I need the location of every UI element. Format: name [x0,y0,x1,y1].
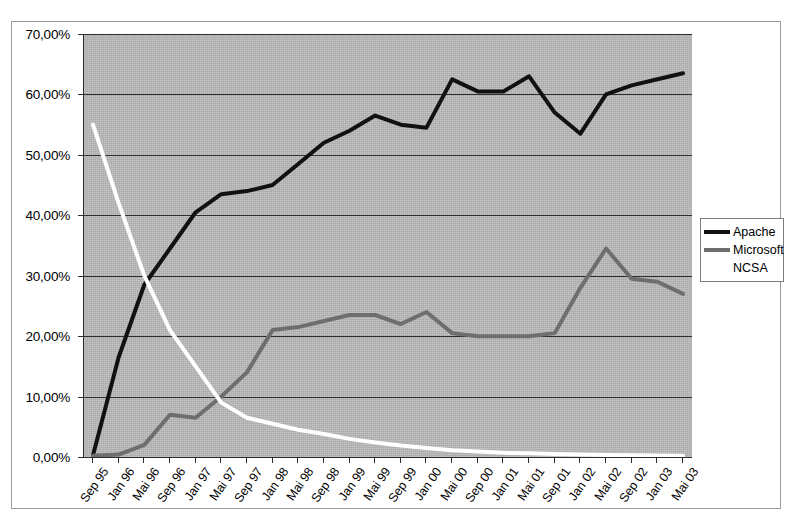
x-axis-tick-mark [502,458,503,463]
legend-label: Apache [733,226,775,239]
y-axis-tick-label: 50,00% [25,147,70,162]
x-axis-tick-mark [554,458,555,463]
x-axis: Sep 95Jan 96Mai 96Sep 96Jan 97Mai 97Sep … [12,465,782,510]
x-axis-tick-mark [220,458,221,463]
x-axis-tick-mark [246,458,247,463]
plot-wrapper: 0,00%10,00%20,00%30,00%40,00%50,00%60,00… [12,22,782,510]
legend-item: NCSA [704,259,779,277]
y-axis: 0,00%10,00%20,00%30,00%40,00%50,00%60,00… [12,22,78,457]
series-line-microsoft [93,249,683,456]
legend-label: Microsoft [733,244,784,257]
legend-swatch-icon [704,248,730,252]
legend-item: Microsoft [704,241,779,259]
legend-item: Apache [704,223,779,241]
plot-area [83,34,692,458]
x-axis-tick-mark [92,458,93,463]
x-axis-tick-mark [349,458,350,463]
x-axis-tick-mark [374,458,375,463]
x-axis-tick-label: Sep 95 [78,465,112,505]
x-axis-tick-mark [297,458,298,463]
x-axis-tick-mark [656,458,657,463]
x-axis-tick-mark [605,458,606,463]
x-axis-tick-mark [477,458,478,463]
x-axis-tick-mark [528,458,529,463]
y-axis-tick-label: 20,00% [25,329,70,344]
x-axis-tick-mark [682,458,683,463]
x-axis-tick-mark [169,458,170,463]
x-axis-tick-mark [195,458,196,463]
y-axis-tick-label: 60,00% [25,87,70,102]
x-axis-tick-mark [579,458,580,463]
x-axis-tick-mark [400,458,401,463]
series-line-ncsa [93,125,683,456]
legend-swatch-icon [704,230,730,234]
x-axis-tick-mark [451,458,452,463]
x-axis-tick-mark [272,458,273,463]
x-axis-tick-mark [143,458,144,463]
y-axis-tick-label: 40,00% [25,208,70,223]
x-axis-tick-mark [425,458,426,463]
legend: ApacheMicrosoftNCSA [700,218,784,282]
series-layer [84,34,692,457]
x-axis-tick-mark [631,458,632,463]
y-axis-tick-label: 70,00% [25,27,70,42]
legend-label: NCSA [733,262,768,275]
y-axis-tick-label: 10,00% [25,389,70,404]
x-axis-tick-mark [323,458,324,463]
y-axis-tick-label: 30,00% [25,268,70,283]
x-axis-ticks [83,458,693,464]
chart-figure: 0,00%10,00%20,00%30,00%40,00%50,00%60,00… [11,21,781,509]
y-axis-tick-label: 0,00% [33,450,70,465]
x-axis-tick-mark [118,458,119,463]
legend-swatch-icon [704,266,730,270]
